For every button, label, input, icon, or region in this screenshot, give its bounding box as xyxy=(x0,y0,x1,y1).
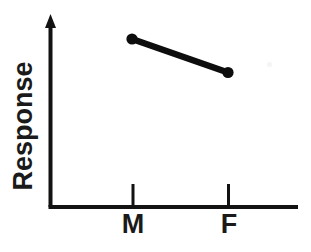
y-axis-arrowhead xyxy=(45,14,56,28)
x-tick-label-m: M xyxy=(113,211,153,238)
data-point-m xyxy=(126,33,137,44)
y-axis-title: Response xyxy=(6,0,40,252)
data-point-f xyxy=(222,67,233,78)
series-line-segment xyxy=(132,39,228,73)
figure-canvas: Response M F xyxy=(0,0,311,252)
x-tick-label-f: F xyxy=(209,211,249,238)
line-chart-plot xyxy=(0,0,311,252)
series-response xyxy=(126,33,233,78)
x-axis xyxy=(49,184,299,207)
y-axis xyxy=(45,14,56,207)
